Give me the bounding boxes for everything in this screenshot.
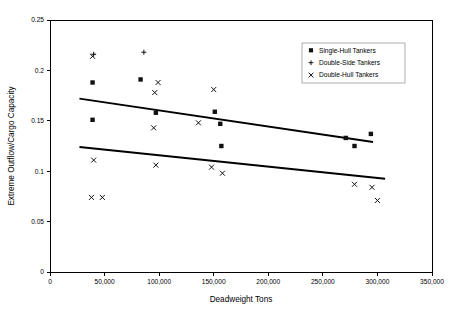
x-tick-label: 350,000 [420,278,444,285]
x-axis-ticks: 050,000100,000150,000200,000250,000300,0… [48,272,444,285]
x-tick-label: 0 [48,278,52,285]
marker-square [138,77,142,81]
x-axis-title: Deadweight Tons [210,295,273,304]
marker-square [219,144,223,148]
marker-square [344,136,348,140]
marker-square [90,80,94,84]
y-tick-label: 0.25 [31,16,44,23]
y-tick-label: 0.2 [35,67,44,74]
marker-square [309,48,313,52]
chart-legend: Single-Hull TankersDouble-Side TankersDo… [302,43,405,83]
legend-label-2: Double-Hull Tankers [319,71,379,78]
y-axis-title: Extreme Outflow/Cargo Capacity [7,85,16,205]
x-tick-label: 50,000 [94,278,115,285]
marker-cross [153,163,158,168]
x-tick-label: 100,000 [147,278,171,285]
marker-square [218,122,222,126]
legend-label-0: Single-Hull Tankers [319,47,376,55]
x-tick-label: 300,000 [366,278,390,285]
y-axis-ticks: 00.050.10.150.20.25 [31,16,50,275]
y-tick-label: 0.15 [31,117,44,124]
marker-cross [151,125,156,130]
marker-cross [375,198,380,203]
marker-cross [91,158,96,163]
y-tick-label: 0.1 [35,168,44,175]
marker-cross [211,87,216,92]
scatter-chart: 050,000100,000150,000200,000250,000300,0… [0,0,457,314]
marker-square [369,132,373,136]
x-tick-label: 150,000 [202,278,226,285]
x-tick-label: 200,000 [256,278,280,285]
legend-label-1: Double-Side Tankers [319,59,381,66]
marker-square [154,111,158,115]
marker-cross [156,80,161,85]
marker-cross [89,195,94,200]
trend-lines [79,99,385,179]
lower-trend-line [79,147,385,179]
marker-cross [100,195,105,200]
marker-cross [152,90,157,95]
y-tick-label: 0.05 [31,218,44,225]
series-double-side-tankers [91,50,146,57]
x-tick-label: 250,000 [311,278,335,285]
marker-square [352,144,356,148]
marker-plus [141,50,146,55]
series-single-hull-tankers [90,77,373,148]
marker-square [90,118,94,122]
marker-square [213,110,217,114]
marker-cross [196,120,201,125]
marker-cross [220,171,225,176]
marker-cross [369,185,374,190]
marker-cross [352,182,357,187]
marker-cross [209,165,214,170]
y-tick-label: 0 [40,268,44,275]
chart-container: 050,000100,000150,000200,000250,000300,0… [0,0,457,314]
upper-trend-line [79,99,373,142]
